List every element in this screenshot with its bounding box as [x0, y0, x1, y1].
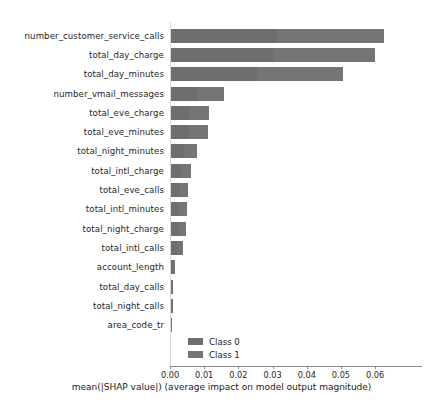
x-axis-tick — [170, 366, 171, 369]
x-axis-title: mean(|SHAP value|) (average impact on mo… — [0, 382, 443, 392]
chart-row: number_customer_service_calls — [170, 26, 435, 45]
stacked-bar — [171, 241, 183, 255]
x-axis-tick-label: 0.05 — [332, 370, 350, 380]
bar-segment-class-0 — [171, 125, 189, 139]
y-axis-tick-label: total_day_charge — [89, 50, 164, 60]
x-axis-tick — [307, 366, 308, 369]
bar-segment-class-1 — [273, 48, 375, 62]
bar-segment-class-1 — [198, 87, 224, 101]
bar-segment-class-0 — [171, 202, 179, 216]
bar-segment-class-1 — [180, 183, 189, 197]
y-axis-tick-label: number_vmail_messages — [53, 89, 164, 99]
bar-segment-class-1 — [179, 202, 187, 216]
stacked-bar — [171, 106, 209, 120]
bar-segment-class-1 — [184, 144, 197, 158]
bar-segment-class-0 — [171, 67, 257, 81]
bar-segment-class-1 — [277, 29, 383, 43]
bar-segment-class-1 — [172, 280, 173, 294]
chart-row: total_eve_calls — [170, 180, 435, 199]
stacked-bar — [171, 67, 343, 81]
shap-summary-bar-chart: number_customer_service_callstotal_day_c… — [0, 0, 443, 409]
chart-row: account_length — [170, 258, 435, 277]
stacked-bar — [171, 29, 384, 43]
bar-segment-class-0 — [171, 106, 190, 120]
chart-row: total_eve_charge — [170, 103, 435, 122]
bar-segment-class-1 — [179, 222, 187, 236]
y-axis-tick-label: total_intl_minutes — [86, 204, 164, 214]
y-axis-tick-label: total_day_minutes — [84, 69, 164, 79]
legend-item-class-1: Class 1 — [188, 348, 240, 361]
y-axis-tick-label: total_day_calls — [99, 282, 164, 292]
chart-row: total_intl_calls — [170, 238, 435, 257]
legend-label-class-1: Class 1 — [209, 350, 240, 360]
chart-row: total_intl_charge — [170, 161, 435, 180]
chart-row: number_vmail_messages — [170, 84, 435, 103]
chart-row: total_day_charge — [170, 45, 435, 64]
y-axis-tick-label: total_intl_calls — [102, 243, 164, 253]
stacked-bar — [171, 164, 191, 178]
y-axis-tick-label: area_code_tr — [108, 320, 164, 330]
legend-swatch-icon-class-1 — [188, 351, 203, 358]
x-axis-tick-label: 0.06 — [366, 370, 384, 380]
y-axis-tick-label: total_eve_charge — [89, 108, 164, 118]
chart-legend: Class 0 Class 1 — [186, 334, 242, 362]
stacked-bar — [171, 125, 208, 139]
y-axis-tick-label: account_length — [97, 262, 164, 272]
x-axis-tick — [204, 366, 205, 369]
bar-segment-class-1 — [173, 260, 175, 274]
x-axis-tick-label: 0.00 — [161, 370, 179, 380]
chart-row: total_night_charge — [170, 219, 435, 238]
y-axis-tick-label: number_customer_service_calls — [25, 31, 164, 41]
stacked-bar — [171, 202, 187, 216]
stacked-bar — [171, 260, 175, 274]
y-axis-tick-label: total_night_charge — [83, 224, 164, 234]
y-axis-tick-label: total_eve_minutes — [84, 127, 164, 137]
stacked-bar — [171, 299, 173, 313]
legend-item-class-0: Class 0 — [188, 335, 240, 348]
x-axis-tick — [375, 366, 376, 369]
x-axis-tick-label: 0.01 — [195, 370, 213, 380]
chart-row: total_day_minutes — [170, 65, 435, 84]
x-axis-tick — [341, 366, 342, 369]
bar-segment-class-0 — [171, 222, 179, 236]
bar-segment-class-0 — [171, 183, 180, 197]
bar-segment-class-0 — [171, 144, 184, 158]
y-axis-tick-label: total_night_minutes — [77, 146, 164, 156]
bar-segment-class-1 — [181, 164, 191, 178]
plot-area: number_customer_service_callstotal_day_c… — [170, 26, 435, 366]
bar-segment-class-1 — [189, 125, 207, 139]
x-axis-tick-label: 0.03 — [263, 370, 281, 380]
stacked-bar — [171, 48, 375, 62]
x-axis-tick — [238, 366, 239, 369]
stacked-bar — [171, 144, 197, 158]
y-axis-tick-label: total_night_calls — [93, 301, 164, 311]
stacked-bar — [171, 183, 188, 197]
bar-segment-class-1 — [190, 106, 209, 120]
bar-segment-class-0 — [171, 48, 273, 62]
y-axis-tick-label: total_intl_charge — [91, 166, 164, 176]
bar-segment-class-1 — [172, 299, 173, 313]
bar-segment-class-0 — [171, 164, 181, 178]
x-axis-tick-label: 0.02 — [229, 370, 247, 380]
bar-segment-class-0 — [171, 29, 277, 43]
x-axis-line — [170, 366, 422, 367]
legend-label-class-0: Class 0 — [209, 337, 240, 347]
chart-row: total_eve_minutes — [170, 123, 435, 142]
bar-segment-class-1 — [177, 241, 183, 255]
chart-row: area_code_tr — [170, 316, 435, 335]
stacked-bar — [171, 87, 224, 101]
y-axis-tick-label: total_eve_calls — [100, 185, 164, 195]
x-axis-tick — [273, 366, 274, 369]
stacked-bar — [171, 318, 172, 332]
stacked-bar — [171, 222, 186, 236]
legend-swatch-icon-class-0 — [188, 338, 203, 345]
x-axis-tick-label: 0.04 — [298, 370, 316, 380]
bar-segment-class-0 — [171, 87, 198, 101]
chart-row: total_night_calls — [170, 296, 435, 315]
bar-segment-class-1 — [257, 67, 343, 81]
stacked-bar — [171, 280, 173, 294]
chart-row: total_night_minutes — [170, 142, 435, 161]
chart-row: total_day_calls — [170, 277, 435, 296]
chart-row: total_intl_minutes — [170, 200, 435, 219]
